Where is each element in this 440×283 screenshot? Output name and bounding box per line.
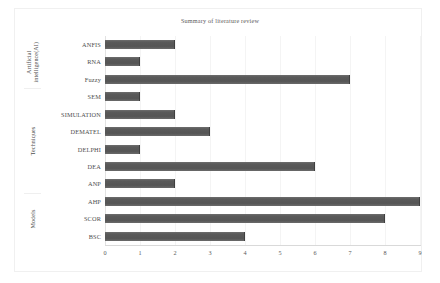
bar-fuzzy [105, 75, 350, 84]
group-separator [24, 88, 41, 89]
gridline-9 [420, 36, 421, 245]
bar-row [105, 158, 420, 175]
group-axis-labels: Artificial intelligence(AI)TechniquesMod… [24, 36, 42, 245]
x-tick-label-1: 1 [132, 249, 148, 256]
category-label-dea: DEA [40, 158, 101, 175]
bar-row [105, 106, 420, 123]
bar-row [105, 228, 420, 245]
category-axis-labels: ANFISRNAFuzzySEMSIMULATIONDEMATELDELPHID… [40, 36, 101, 245]
bar-row [105, 210, 420, 227]
bar-dematel [105, 127, 210, 136]
x-tick-label-9: 9 [412, 249, 428, 256]
category-label-rna: RNA [40, 53, 101, 70]
bar-row [105, 141, 420, 158]
bar-row [105, 88, 420, 105]
bar-dea [105, 162, 315, 171]
chart-figure: Summary of literature review ANFISRNAFuz… [0, 0, 440, 283]
bar-row [105, 53, 420, 70]
x-tick-label-7: 7 [342, 249, 358, 256]
bar-anfis [105, 40, 175, 49]
category-label-dematel: DEMATEL [40, 123, 101, 140]
category-label-fuzzy: Fuzzy [40, 71, 101, 88]
bar-delphi [105, 145, 140, 154]
plot-area [105, 36, 420, 245]
x-axis-line [105, 245, 421, 246]
x-tick-label-8: 8 [377, 249, 393, 256]
category-label-bsc: BSC [40, 228, 101, 245]
category-label-ahp: AHP [40, 193, 101, 210]
group-label-models: Models [24, 193, 42, 245]
bar-row [105, 36, 420, 53]
bar-row [105, 193, 420, 210]
x-tick-label-4: 4 [237, 249, 253, 256]
x-tick-label-2: 2 [167, 249, 183, 256]
x-tick-label-6: 6 [307, 249, 323, 256]
bar-simulation [105, 110, 175, 119]
category-label-sem: SEM [40, 88, 101, 105]
category-label-scor: SCOR [40, 210, 101, 227]
group-separator [24, 193, 41, 194]
category-label-simulation: SIMULATION [40, 106, 101, 123]
bar-row [105, 71, 420, 88]
x-tick-label-0: 0 [97, 249, 113, 256]
chart-title: Summary of literature review [0, 17, 440, 24]
category-label-anp: ANP [40, 175, 101, 192]
x-tick-label-3: 3 [202, 249, 218, 256]
bar-anp [105, 179, 175, 188]
category-label-anfis: ANFIS [40, 36, 101, 53]
bar-sem [105, 92, 140, 101]
bar-bsc [105, 232, 245, 241]
x-axis-tick-labels: 0123456789 [105, 249, 420, 261]
group-label-artificial-intelligence-ai: Artificial intelligence(AI) [24, 36, 42, 88]
bar-row [105, 175, 420, 192]
x-tick-label-5: 5 [272, 249, 288, 256]
bar-rna [105, 57, 140, 66]
group-label-techniques: Techniques [24, 88, 42, 193]
bar-row [105, 123, 420, 140]
bar-ahp [105, 197, 420, 206]
category-label-delphi: DELPHI [40, 141, 101, 158]
bar-scor [105, 214, 385, 223]
